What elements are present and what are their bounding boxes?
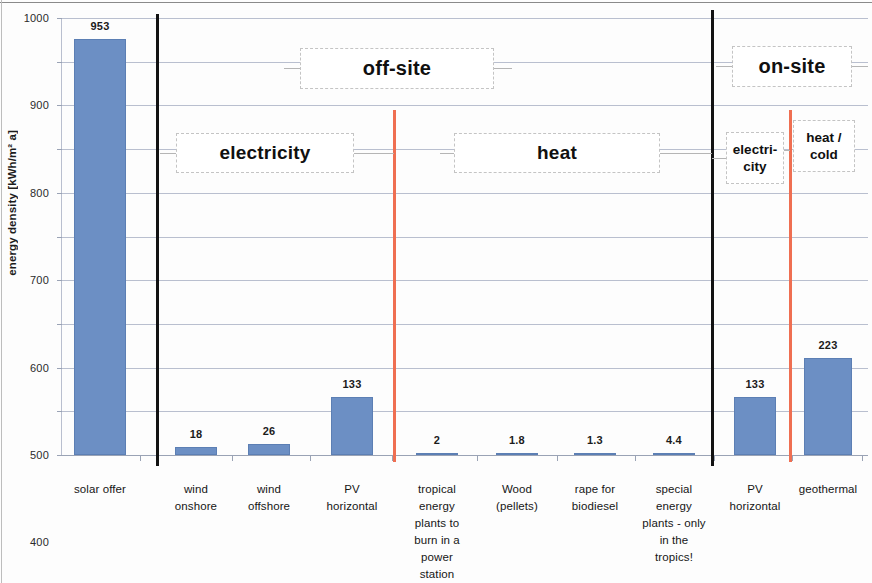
category-tick <box>140 455 141 461</box>
bar <box>416 453 458 455</box>
group-separator-onsite-start <box>711 10 714 466</box>
bar <box>804 358 852 455</box>
leader-offsite-right <box>492 68 512 69</box>
y-axis-tick: 1000 <box>57 18 62 19</box>
page-top-rule <box>0 2 872 3</box>
category-label: solar offer <box>57 481 143 498</box>
y-axis-tick: 300 <box>57 324 62 325</box>
y-axis-tick: 200 <box>57 368 62 369</box>
y-axis-tick-label: 700 <box>30 274 49 286</box>
bar <box>248 444 290 455</box>
bar-value-label: 2 <box>434 434 440 446</box>
category-label-line: biodiesel <box>557 498 633 515</box>
category-label-line: horizontal <box>314 498 390 515</box>
leader-electricity-right <box>352 153 394 154</box>
bar-value-label: 133 <box>746 378 765 390</box>
y-axis-tick-label: 400 <box>30 536 49 548</box>
category-label: PVhorizontal <box>314 481 390 515</box>
category-tick <box>310 455 311 461</box>
category-label-line: plants to <box>399 515 475 532</box>
category-label-line: PV <box>717 481 793 498</box>
group-separator-offsite-start <box>156 14 159 466</box>
category-label-line: station <box>399 566 475 583</box>
category-tick <box>862 455 863 461</box>
y-axis-tick-label: 900 <box>30 99 49 111</box>
annotation-off-site: off-site <box>300 48 494 89</box>
y-axis-tick-label: 500 <box>30 449 49 461</box>
annotation-electricity-small: electri- city <box>726 132 784 184</box>
y-axis-title: energy density [kWh/m² a] <box>6 130 22 276</box>
y-axis-tick: 500 <box>57 237 62 238</box>
category-label-line: onshore <box>158 498 234 515</box>
gridline <box>62 237 868 238</box>
annotation-heat: heat <box>454 133 660 173</box>
page-left-rule <box>1 0 2 583</box>
category-label-line: Wood <box>479 481 555 498</box>
y-axis-tick: 100 <box>57 411 62 412</box>
bar-value-label: 4.4 <box>666 434 682 446</box>
bar <box>331 397 373 455</box>
gridline <box>62 280 868 281</box>
annotation-heat-cold-line-2: cold <box>810 146 838 163</box>
gridline <box>62 455 868 456</box>
category-tick <box>714 455 715 461</box>
category-label-line: wind <box>158 481 234 498</box>
bar-value-label: 1.3 <box>587 434 603 446</box>
category-label-line: in the <box>636 532 712 549</box>
category-label: PVhorizontal <box>717 481 793 515</box>
gridline <box>62 18 868 19</box>
category-label: windoffshore <box>231 481 307 515</box>
category-label-line: geothermal <box>787 481 869 498</box>
bar <box>175 447 217 455</box>
y-axis-tick: 800 <box>57 105 62 106</box>
category-label-line: tropical <box>399 481 475 498</box>
category-label-line: plants - only <box>636 515 712 532</box>
annotation-heat-cold: heat / cold <box>793 120 855 172</box>
gridline <box>62 368 868 369</box>
leader-onsite-right <box>850 66 868 67</box>
category-label: geothermal <box>787 481 869 498</box>
group-separator-electricity-heat <box>393 110 396 462</box>
category-tick <box>635 455 636 461</box>
category-label-line: horizontal <box>717 498 793 515</box>
y-axis-tick-label: 600 <box>30 362 49 374</box>
category-label-line: burn in a <box>399 532 475 549</box>
bar <box>653 453 695 455</box>
category-label-line: energy <box>636 498 712 515</box>
y-axis-tick: 0 <box>57 455 62 456</box>
category-tick <box>557 455 558 461</box>
category-label-line: special <box>636 481 712 498</box>
y-axis-tick: 400 <box>57 280 62 281</box>
annotation-heat-cold-line-1: heat / <box>806 129 841 146</box>
bar-value-label: 133 <box>343 378 362 390</box>
category-label-line: power <box>399 549 475 566</box>
group-separator-onsite-electricity-heat <box>789 110 792 462</box>
y-axis-tick: 600 <box>57 193 62 194</box>
category-label-line: rape for <box>557 481 633 498</box>
y-axis-tick: 900 <box>57 62 62 63</box>
category-label: windonshore <box>158 481 234 515</box>
category-tick <box>792 455 793 461</box>
annotation-electricity-small-line-1: electri- <box>733 141 777 158</box>
category-label-line: energy <box>399 498 475 515</box>
bar <box>74 39 126 455</box>
y-axis-tick: 700 <box>57 149 62 150</box>
energy-density-bar-chart: energy density [kWh/m² a] 01002003004005… <box>0 0 872 583</box>
bar-value-label: 26 <box>263 425 276 437</box>
category-label: tropicalenergyplants toburn in apowersta… <box>399 481 475 583</box>
category-label-line: offshore <box>231 498 307 515</box>
category-tick <box>232 455 233 461</box>
leader-heat-right <box>658 153 712 154</box>
annotation-electricity-small-line-2: city <box>743 158 766 175</box>
category-label-line: (pellets) <box>479 498 555 515</box>
bar-value-label: 18 <box>190 428 203 440</box>
category-label-line: tropics! <box>636 549 712 566</box>
category-label-line: wind <box>231 481 307 498</box>
category-label-line: solar offer <box>57 481 143 498</box>
category-label: specialenergyplants - onlyin thetropics! <box>636 481 712 566</box>
bar-value-label: 1.8 <box>509 434 525 446</box>
gridline <box>62 105 868 106</box>
y-axis-tick-label: 1000 <box>24 12 49 24</box>
annotation-electricity: electricity <box>176 133 354 173</box>
bar-value-label: 223 <box>819 339 838 351</box>
